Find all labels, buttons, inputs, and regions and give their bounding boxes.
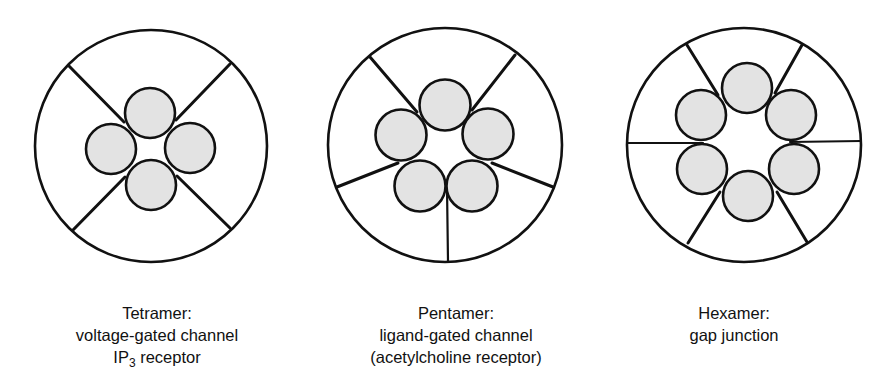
receptor-text: receptor: [136, 348, 201, 366]
tetramer-subunit: [86, 124, 136, 174]
ip-text: IP: [113, 348, 129, 366]
pentamer-caption: Pentamer: ligand-gated channel (acetylch…: [370, 302, 542, 368]
hexamer-subunit: [769, 144, 819, 194]
tetramer-channel-diagram: [35, 30, 267, 262]
hexamer-channel-diagram: [627, 28, 861, 262]
tetramer-type-line: voltage-gated channel: [76, 324, 238, 346]
tetramer-subunit: [165, 123, 215, 173]
pentamer-subunit: [420, 80, 471, 131]
hexamer-caption: Hexamer: gap junction: [690, 302, 779, 346]
hexamer-title: Hexamer:: [690, 302, 779, 324]
pentamer-channel-diagram: [328, 28, 562, 262]
hexamer-subunit: [722, 63, 772, 113]
pentamer-subunit: [395, 161, 446, 212]
pentamer-type-line: ligand-gated channel: [370, 324, 542, 346]
tetramer-subunit: [125, 88, 175, 138]
tetramer-title: Tetramer:: [76, 302, 238, 324]
tetramer-example-line: IP3 receptor: [76, 346, 238, 368]
hexamer-divider-line: [790, 141, 861, 142]
pentamer-title: Pentamer:: [370, 302, 542, 324]
pentamer-membrane-ring: [328, 28, 562, 262]
pentamer-subunit: [376, 110, 427, 161]
pentamer-subunit: [447, 161, 498, 212]
tetramer-subunit: [126, 160, 176, 210]
pentamer-subunit: [463, 109, 514, 160]
hexamer-subunit: [676, 90, 726, 140]
pentamer-divider-line: [447, 187, 448, 261]
ip-subscript: 3: [129, 356, 136, 370]
hexamer-type-line: gap junction: [690, 324, 779, 346]
tetramer-caption: Tetramer: voltage-gated channel IP3 rece…: [76, 302, 238, 368]
hexamer-subunit: [723, 171, 773, 221]
hexamer-subunit: [677, 144, 727, 194]
hexamer-subunit: [766, 90, 816, 140]
pentamer-example-line: (acetylcholine receptor): [370, 346, 542, 368]
